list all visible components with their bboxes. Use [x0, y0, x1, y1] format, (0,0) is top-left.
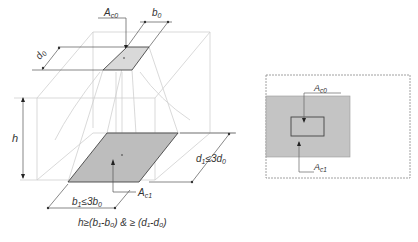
label-h: h	[12, 132, 18, 144]
label-ac0: Ac0	[103, 7, 118, 19]
label-h-condition: h≥(b₁-b₀) & ≥ (d₁-d₀)	[78, 217, 167, 228]
plan-label-ac1: Ac1	[313, 162, 327, 173]
plan-area-ac1	[266, 96, 350, 157]
plan-label-ac0: Ac0	[313, 83, 327, 94]
label-ac1: Ac1	[137, 187, 152, 199]
area-ac0-top	[103, 47, 149, 70]
diagram-canvas: Ac0 b0 d0 h Ac1 d1≤3d0 b1≤3b0 h≥(b₁-b₀) …	[0, 0, 418, 242]
label-b1-constraint: b1≤3b0	[72, 196, 102, 208]
left-figure: Ac0 b0 d0 h Ac1 d1≤3d0 b1≤3b0 h≥(b₁-b₀) …	[12, 7, 236, 228]
label-d1-constraint: d1≤3d0	[196, 153, 226, 165]
right-figure: Ac0 Ac1	[266, 75, 410, 178]
b0-dimension	[127, 22, 172, 47]
label-b0: b0	[152, 7, 162, 19]
label-d0: d0	[33, 47, 48, 62]
